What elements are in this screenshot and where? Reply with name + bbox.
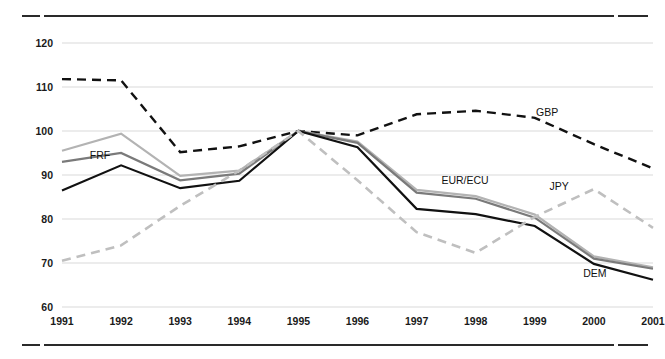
y-axis-tick-labels: 60708090100110120 [35, 37, 53, 313]
x-tick-label: 1991 [50, 315, 74, 327]
series-line-jpy [62, 131, 653, 261]
series-line-frf [62, 131, 653, 269]
x-tick-label: 2001 [641, 315, 665, 327]
top-divider [0, 14, 665, 17]
divider-segment [618, 15, 648, 17]
y-tick-label: 60 [41, 301, 53, 313]
divider-segment [22, 15, 40, 17]
x-tick-label: 1998 [464, 315, 488, 327]
chart-figure: 60708090100110120 1991199219931994199519… [0, 0, 665, 359]
divider-segment [22, 344, 40, 346]
line-chart: 60708090100110120 1991199219931994199519… [0, 0, 665, 359]
x-tick-label: 1999 [523, 315, 547, 327]
y-tick-label: 70 [41, 257, 53, 269]
series-label-dem: DEM [583, 267, 606, 279]
series-line-eur-ecu [62, 131, 653, 267]
x-axis-tick-labels: 1991199219931994199519961997199819992000… [50, 315, 665, 327]
x-tick-label: 1992 [109, 315, 133, 327]
bottom-divider [0, 343, 665, 346]
x-tick-label: 1997 [405, 315, 429, 327]
x-tick-label: 1996 [346, 315, 370, 327]
divider-segment [44, 344, 614, 346]
series-inline-labels: FRFEUR/ECUJPYGBPDEM [90, 106, 607, 279]
y-tick-label: 120 [35, 37, 53, 49]
series-label-eur-ecu: EUR/ECU [441, 174, 488, 186]
x-tick-label: 2000 [582, 315, 606, 327]
x-tick-label: 1993 [169, 315, 193, 327]
divider-segment [618, 344, 648, 346]
y-tick-label: 100 [35, 125, 53, 137]
gridlines-group [62, 43, 653, 307]
x-tick-label: 1995 [287, 315, 311, 327]
series-label-jpy: JPY [550, 180, 569, 192]
y-tick-label: 90 [41, 169, 53, 181]
series-line-dem [62, 131, 653, 280]
y-tick-label: 80 [41, 213, 53, 225]
series-label-frf: FRF [90, 149, 110, 161]
series-label-gbp: GBP [536, 106, 558, 118]
y-tick-label: 110 [36, 81, 53, 93]
divider-segment [44, 15, 614, 17]
x-tick-label: 1994 [228, 315, 252, 327]
